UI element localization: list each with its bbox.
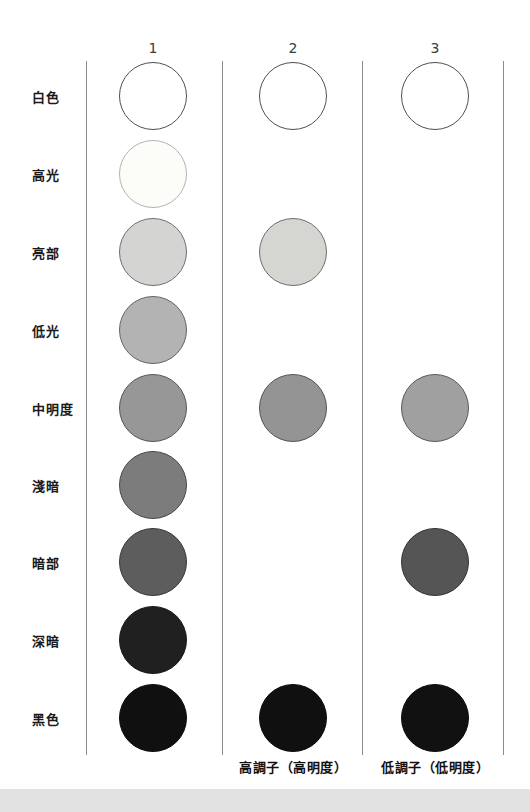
column-divider-2	[222, 61, 223, 755]
row-label-7: 暗部	[32, 553, 60, 572]
row-label-1: 白色	[32, 87, 60, 106]
footer-bar	[0, 789, 530, 812]
row-label-3: 亮部	[32, 243, 60, 262]
tone-circle-col1-深暗	[119, 606, 187, 674]
tone-circle-col1-中明度	[119, 374, 187, 442]
tone-circle-col3-白色	[401, 62, 469, 130]
tone-circle-col3-暗部	[401, 528, 469, 596]
column-caption-3: 低調子（低明度）	[381, 757, 489, 776]
tone-circle-col1-暗部	[119, 528, 187, 596]
tone-circle-col1-高光	[119, 140, 187, 208]
tone-circle-col2-中明度	[259, 374, 327, 442]
column-header-2: 2	[289, 40, 298, 56]
tonal-value-diagram: 白色高光亮部低光中明度淺暗暗部深暗黑色 123 高調子（高明度）低調子（低明度）	[0, 0, 530, 812]
row-label-2: 高光	[32, 165, 60, 184]
column-header-1: 1	[149, 40, 158, 56]
row-label-9: 黑色	[32, 709, 60, 728]
tone-circle-col2-亮部	[259, 218, 327, 286]
row-label-4: 低光	[32, 321, 60, 340]
tone-circle-col2-黑色	[259, 684, 327, 752]
column-divider-3	[362, 61, 363, 755]
tone-circle-col1-淺暗	[119, 451, 187, 519]
row-label-8: 深暗	[32, 631, 60, 650]
tone-circle-col1-低光	[119, 296, 187, 364]
tone-circle-col1-黑色	[119, 684, 187, 752]
column-divider-1	[86, 61, 87, 755]
column-divider-4	[503, 61, 504, 755]
row-label-5: 中明度	[32, 399, 74, 418]
tone-circle-col1-白色	[119, 62, 187, 130]
row-label-6: 淺暗	[32, 476, 60, 495]
tone-circle-col2-白色	[259, 62, 327, 130]
tone-circle-col3-黑色	[401, 684, 469, 752]
tone-circle-col3-中明度	[401, 374, 469, 442]
column-header-3: 3	[431, 40, 440, 56]
tone-circle-col1-亮部	[119, 218, 187, 286]
column-caption-2: 高調子（高明度）	[239, 757, 347, 776]
